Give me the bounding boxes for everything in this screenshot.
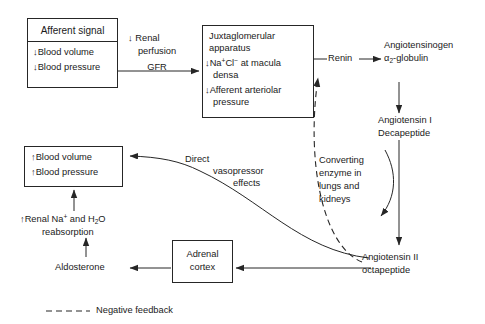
converting-enzyme-line-3: lungs and bbox=[319, 181, 359, 192]
diagram-canvas: Afferent signal ↓Blood volume ↓Blood pre… bbox=[0, 0, 485, 324]
jga-item-1-suffix: at macula bbox=[238, 58, 281, 68]
renin-node: Renin bbox=[328, 53, 352, 64]
blood-output-line-1-text: Blood volume bbox=[36, 152, 92, 162]
afferent-signal-line-1: ↓Blood volume bbox=[33, 47, 94, 58]
renal-perfusion-label-line-2: perfusion bbox=[126, 46, 188, 57]
and-h-text: and H bbox=[67, 214, 94, 224]
afferent-signal-line-1-text: Blood volume bbox=[38, 47, 94, 57]
blood-output-line-1: ↑Blood volume bbox=[31, 152, 92, 163]
jga-item-1-line-1: ↓Na+Cl− at macula bbox=[205, 58, 281, 69]
renal-perfusion-label-line-1: ↓ Renal bbox=[128, 33, 160, 44]
aldosterone-node: Aldosterone bbox=[55, 262, 105, 273]
adrenal-cortex-line-2: cortex bbox=[172, 262, 233, 273]
jga-item-2-line-1: ↓Afferent arteriolar bbox=[205, 85, 281, 96]
vasopressor-label-line-3: effects bbox=[233, 178, 260, 189]
angiotensin-ii-node-line-2: octapeptide bbox=[362, 265, 410, 276]
angiotensinogen-node-line-1: Angiotensinogen bbox=[384, 40, 453, 51]
afferent-signal-line-2-text: Blood pressure bbox=[38, 62, 101, 72]
renal-na-text: Renal Na bbox=[25, 214, 64, 224]
converting-enzyme-line-1: Converting bbox=[319, 155, 364, 166]
down-arrow-icon: ↓ bbox=[128, 33, 133, 43]
arrow-converting-enzyme bbox=[381, 150, 394, 216]
converting-enzyme-line-2: enzyme in bbox=[319, 168, 361, 179]
legend-label: Negative feedback bbox=[96, 305, 173, 316]
globulin-text: -globulin bbox=[393, 53, 428, 63]
angiotensinogen-node-line-2: α2-globulin bbox=[384, 53, 428, 64]
jga-title-line-2: apparatus bbox=[209, 43, 250, 54]
jga-item-2-line-2: pressure bbox=[213, 97, 249, 108]
angiotensin-i-node-line-2: Decapeptide bbox=[378, 128, 430, 139]
angiotensin-ii-node-line-1: Angiotensin II bbox=[362, 252, 418, 263]
adrenal-cortex-line-1: Adrenal bbox=[172, 249, 233, 260]
blood-output-line-2-text: Blood pressure bbox=[36, 167, 99, 177]
blood-output-line-2: ↑Blood pressure bbox=[31, 167, 98, 178]
jga-title-line-1: Juxtaglomerular bbox=[209, 31, 275, 42]
water-oxygen: O bbox=[98, 214, 105, 224]
jga-item-1-line-2: densa bbox=[213, 70, 238, 81]
converting-enzyme-line-4: kidneys bbox=[319, 194, 351, 205]
vasopressor-label-line-2: vasopressor bbox=[213, 166, 264, 177]
renal-perfusion-text: Renal bbox=[135, 33, 159, 43]
angiotensin-i-node-line-1: Angiotensin I bbox=[378, 115, 432, 126]
gfr-label: GFR bbox=[126, 62, 188, 73]
jga-item-1-na: Na bbox=[210, 58, 222, 68]
afferent-signal-header: Afferent signal bbox=[27, 25, 118, 36]
renal-reabsorption-line-1: ↑Renal Na+ and H2O bbox=[20, 214, 106, 225]
jga-item-1-cl: Cl bbox=[225, 58, 234, 68]
afferent-signal-line-2: ↓Blood pressure bbox=[33, 62, 100, 73]
vasopressor-label-line-1: Direct bbox=[185, 154, 209, 165]
jga-item-2-text: Afferent arteriolar bbox=[210, 85, 282, 95]
renal-reabsorption-line-2: reabsorption bbox=[42, 227, 94, 238]
